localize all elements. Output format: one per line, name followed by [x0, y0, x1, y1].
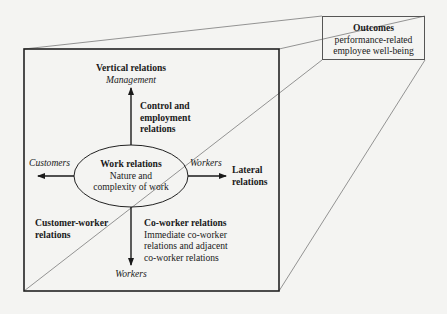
work-relations-title: Work relations — [76, 158, 186, 170]
control-employment-relations-label: Control and employment relations — [140, 100, 191, 135]
outcomes-label: Outcomes performance-related employee we… — [322, 22, 425, 57]
coworker-relations-label: Co-worker relations Immediate co-worker … — [144, 217, 228, 263]
outcomes-line-1: performance-related — [322, 34, 425, 46]
customer-worker-relations-label: Customer-worker relations — [35, 217, 108, 240]
management-label: Management — [71, 74, 191, 86]
lateral-relations-label: Lateral relations — [232, 164, 268, 187]
work-relations-diagram: Outcomes performance-related employee we… — [0, 0, 447, 314]
work-relations-line-2: complexity of work — [76, 181, 186, 193]
outcomes-line-2: employee well-being — [322, 45, 425, 57]
vertical-relations-title: Vertical relations — [71, 62, 191, 74]
work-relations-line-1: Nature and — [76, 170, 186, 182]
work-relations-label: Work relations Nature and complexity of … — [76, 158, 186, 193]
customers-label: Customers — [29, 157, 70, 169]
workers-right-label: Workers — [190, 157, 222, 169]
vertical-relations-label: Vertical relations Management — [71, 62, 191, 85]
workers-bottom-label: Workers — [101, 268, 161, 280]
outcomes-title: Outcomes — [322, 22, 425, 34]
coworker-relations-title: Co-worker relations — [144, 217, 228, 229]
